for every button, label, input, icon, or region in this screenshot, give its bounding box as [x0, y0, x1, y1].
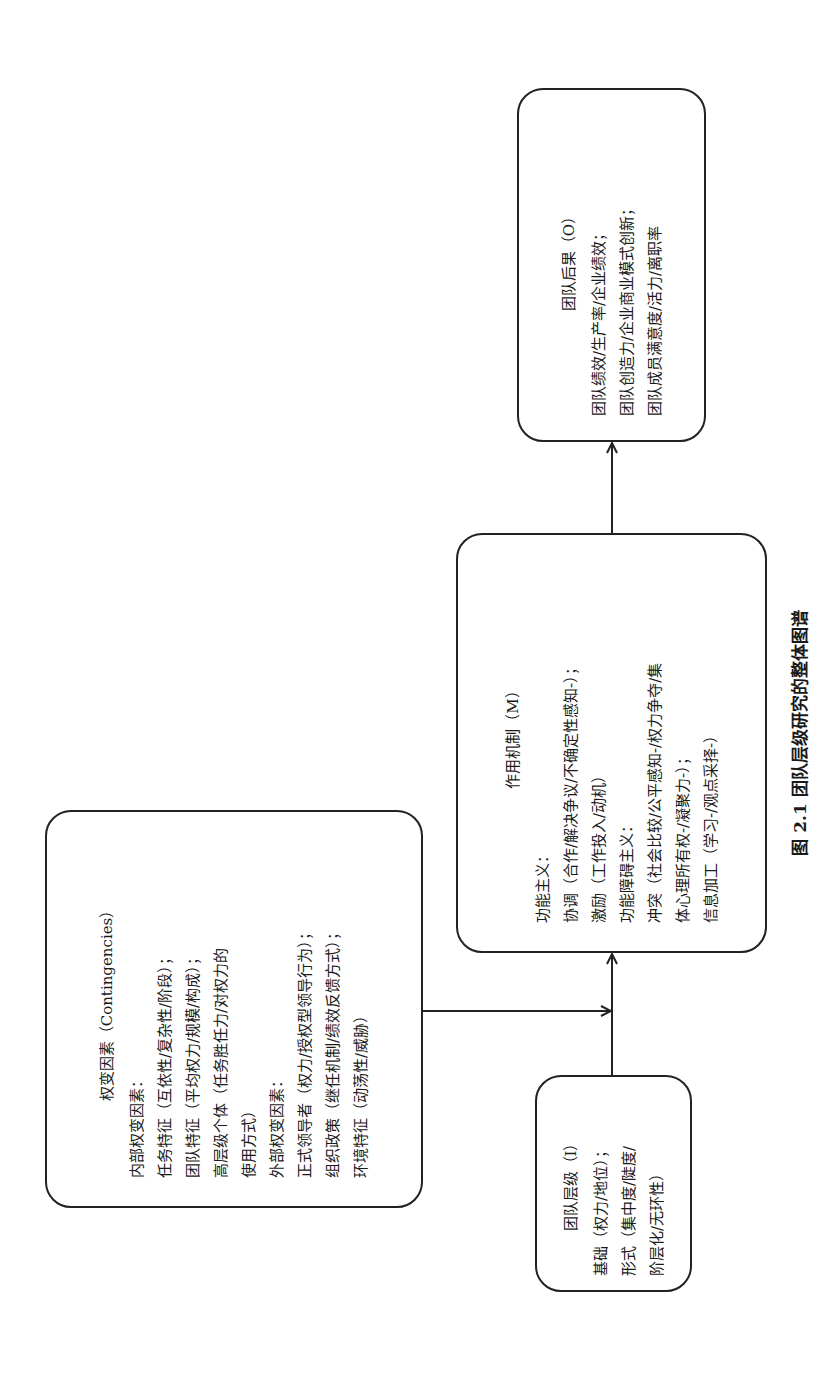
box-line: 形式（集中度/陡度/: [615, 1091, 643, 1276]
box-line: 功能障碍主义：: [613, 549, 641, 923]
diagram-canvas: 团队层级（I） 基础（权力/地位）； 形式（集中度/陡度/ 阶层化/无环性） 权…: [0, 0, 828, 1386]
box-line: 信息加工（学习-/观点采择-）: [697, 549, 725, 923]
box-line: 功能主义：: [529, 549, 557, 923]
box-line: 协调（合作/解决争议/不确定性感知-）；: [557, 549, 585, 923]
box-title: 权变因素（Contingencies）: [93, 826, 121, 1178]
box-line: 阶层化/无环性）: [643, 1091, 671, 1276]
box-line: 团队创造力/企业商业模式创新；: [613, 104, 641, 416]
box-line: 团队绩效/生产率/企业绩效；: [585, 104, 613, 416]
box-mechanism: 作用机制（M） 功能主义： 协调（合作/解决争议/不确定性感知-）； 激励（工作…: [456, 533, 767, 953]
box-line: 组织政策（继任机制/绩效反馈方式）；: [319, 826, 347, 1178]
box-line: 正式领导者（权力/授权型领导行为）；: [291, 826, 319, 1178]
box-team-outcomes: 团队后果（O） 团队绩效/生产率/企业绩效； 团队创造力/企业商业模式创新； 团…: [517, 88, 706, 442]
box-line: 体心理所有权-/凝聚力-）；: [669, 549, 697, 923]
box-line: 内部权变因素：: [123, 826, 151, 1178]
box-line: 高层级个体（任务胜任力/对权力的: [207, 826, 235, 1178]
box-line: 环境特征（动荡性/威胁）: [347, 826, 375, 1178]
box-line: 任务特征（互依性/复杂性/阶段）；: [151, 826, 179, 1178]
box-title: 作用机制（M）: [499, 549, 527, 923]
box-line: 冲突（社会比较/公平感知-/权力争夺/集: [641, 549, 669, 923]
box-line: 团队成员满意度/活力/离职率: [641, 104, 669, 416]
box-line: 激励（工作投入/动机）: [585, 549, 613, 923]
box-line: 基础（权力/地位）；: [587, 1091, 615, 1276]
box-line: 外部权变因素：: [263, 826, 291, 1178]
figure-caption: 图 2.1 团队层级研究的整体图谱: [786, 558, 811, 908]
box-title: 团队层级（I）: [557, 1091, 585, 1276]
box-title: 团队后果（O）: [555, 104, 583, 416]
box-line: 使用方式）: [235, 826, 263, 1178]
box-line: 团队特征（平均权力/规模/构成）；: [179, 826, 207, 1178]
box-contingencies: 权变因素（Contingencies） 内部权变因素： 任务特征（互依性/复杂性…: [45, 810, 423, 1208]
box-team-hierarchy: 团队层级（I） 基础（权力/地位）； 形式（集中度/陡度/ 阶层化/无环性）: [535, 1075, 692, 1292]
